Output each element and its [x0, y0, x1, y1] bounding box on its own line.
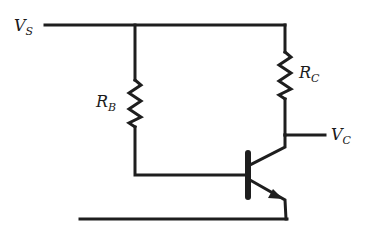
npn-transistor	[248, 135, 286, 219]
emitter-lead	[250, 180, 286, 219]
rc-label: RC	[298, 63, 320, 85]
vs-label: VS	[14, 16, 34, 38]
circuit-diagram: VS RB RC VC	[0, 0, 371, 235]
rb-resistor	[129, 80, 141, 127]
collector-lead	[250, 135, 285, 165]
rb-bottom-wire	[135, 127, 246, 175]
rb-label: RB	[95, 92, 116, 114]
rc-resistor	[279, 52, 291, 99]
vc-label: VC	[331, 125, 352, 147]
